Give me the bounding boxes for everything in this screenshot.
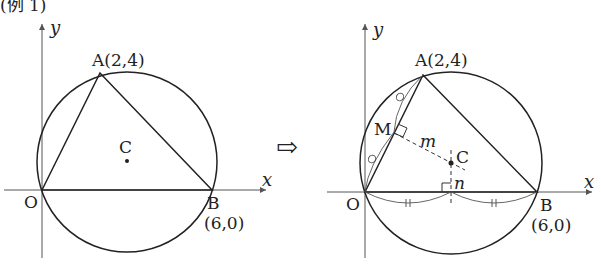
point-b-coord: (6,0) (531, 215, 571, 235)
point-o-label: O (24, 192, 38, 212)
point-b-coord: (6,0) (204, 213, 244, 233)
point-c-label: C (119, 137, 132, 157)
center-point-c (449, 161, 454, 166)
equal-mark-circle-1 (367, 154, 377, 164)
transition-arrow-icon: ⇨ (276, 132, 298, 162)
center-point-c (125, 159, 129, 163)
y-axis-label: y (372, 19, 384, 40)
arc-mid-b (451, 192, 537, 203)
left-figure: x y C A(2,4) O B (6,0) (4, 17, 272, 258)
y-axis-label: y (49, 17, 61, 38)
point-m-label: M (374, 119, 391, 139)
diagram-canvas: x y C A(2,4) O B (6,0) ⇨ x y (0, 0, 601, 268)
right-figure: x y A(2,4) M m C n (327, 19, 594, 258)
equal-mark-circle-2 (395, 92, 405, 102)
x-axis-label: x (584, 171, 594, 192)
point-a-label: A(2,4) (414, 50, 468, 70)
triangle-oab (42, 73, 212, 190)
line-m-label: m (420, 131, 436, 151)
point-b-label: B (207, 193, 220, 213)
point-b-label: B (540, 195, 553, 215)
point-a-label: A(2,4) (91, 50, 145, 70)
point-o-label: O (346, 194, 360, 214)
x-axis-label: x (262, 169, 272, 190)
line-n-label: n (454, 173, 465, 193)
arc-o-mid (365, 192, 451, 203)
right-angle-mark-n (442, 183, 451, 192)
point-c-label: C (456, 147, 469, 167)
